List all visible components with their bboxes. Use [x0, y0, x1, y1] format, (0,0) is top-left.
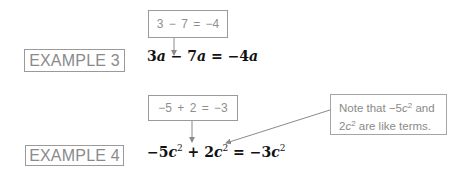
note-term-coefficient: −5 [389, 102, 402, 114]
note-leader-arrow [226, 110, 330, 143]
coefficient: −5 [147, 144, 168, 160]
example-3-label: EXAMPLE 3 [24, 49, 125, 72]
operator: − [166, 48, 187, 64]
variable: a [197, 48, 206, 64]
result-coefficient: −4 [228, 48, 249, 64]
result-exponent: 2 [280, 143, 286, 153]
variable: c [168, 144, 177, 160]
note-text: Note that [339, 102, 389, 114]
result-variable: c [271, 144, 280, 160]
result-variable: a [249, 48, 258, 64]
variable: a [157, 48, 166, 64]
operator: + [183, 144, 204, 160]
note-line-2: 2c2 are like terms. [339, 116, 446, 134]
variable: c [214, 144, 223, 160]
coefficient: 2 [204, 144, 214, 160]
note-text: are like terms. [356, 120, 431, 132]
coefficient: 3 [147, 48, 157, 64]
note-line-1: Note that −5c2 and [339, 98, 446, 116]
example-4-calc-box: −5 + 2 = −3 [148, 95, 238, 121]
equals-sign: = [228, 144, 249, 160]
like-terms-note: Note that −5c2 and 2c2 are like terms. [330, 94, 447, 135]
example-4-label: EXAMPLE 4 [25, 145, 124, 166]
note-text: and [412, 102, 434, 114]
result-coefficient: −3 [250, 144, 271, 160]
example-3-calc-box: 3 − 7 = −4 [148, 10, 228, 38]
equals-sign: = [206, 48, 227, 64]
example-4-equation: −5c2 + 2c2 = −3c2 [147, 143, 285, 160]
example-3-equation: 3a − 7a = −4a [147, 48, 258, 64]
coefficient: 7 [187, 48, 197, 64]
